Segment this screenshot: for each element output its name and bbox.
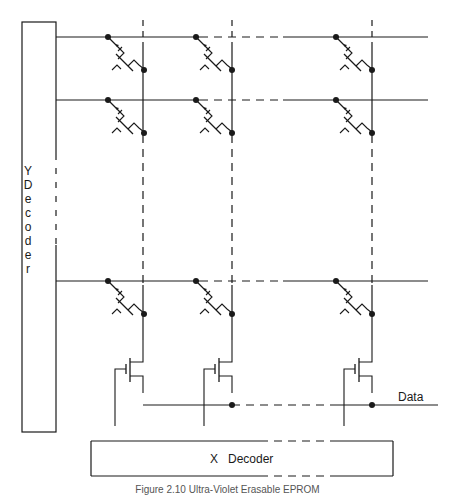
figure-caption: Figure 2.10 Ultra-Violet Erasable EPROM [0,484,455,495]
x-decoder-label: X Decoder [210,452,273,466]
data-junction-dot [369,402,375,408]
bit-lines [56,20,372,340]
column-select-transistors [115,340,372,426]
data-junction-dot [229,402,235,408]
eprom-circuit-diagram: Data X Decoder [0,0,455,497]
y-decoder-label: Y D e c o d e r [22,164,34,276]
data-label: Data [398,390,424,404]
memory-cells [105,34,375,317]
